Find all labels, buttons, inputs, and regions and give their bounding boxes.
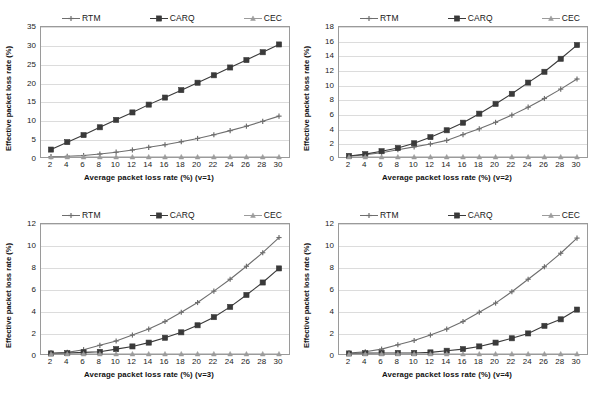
x-axis-ticks: 24681012141618202224262830 — [338, 357, 588, 369]
x-tick-label: 2 — [48, 160, 52, 169]
y-axis-label-text: Effective packet loss rate (%) — [5, 45, 14, 150]
x-tick-label: 28 — [257, 160, 266, 169]
data-point-carq — [526, 80, 531, 85]
x-tick-label: 12 — [127, 357, 136, 366]
cross-marker — [62, 14, 80, 23]
x-tick-label: 16 — [458, 160, 467, 169]
data-point-rtm — [526, 105, 531, 110]
data-point-rtm — [146, 145, 151, 150]
y-axis-label-text: Effective packet loss rate (%) — [5, 242, 14, 347]
x-tick-label: 24 — [225, 357, 234, 366]
y-tick-label: 12 — [325, 219, 334, 228]
data-point-carq — [477, 344, 482, 349]
x-axis-label: Average packet loss rate (%) (v=1) — [0, 173, 298, 182]
y-tick-label: 2 — [32, 329, 36, 338]
data-point-carq — [477, 111, 482, 116]
data-point-rtm — [477, 310, 482, 315]
x-tick-label: 28 — [555, 160, 564, 169]
y-tick-label: 2 — [330, 329, 334, 338]
x-tick-label: 18 — [176, 357, 185, 366]
x-tick-label: 24 — [523, 160, 532, 169]
legend-item-rtm: RTM — [360, 13, 399, 23]
y-tick-label: 10 — [27, 116, 36, 125]
x-tick-label: 10 — [111, 357, 120, 366]
x-tick-label: 4 — [64, 357, 68, 366]
x-tick-label: 24 — [225, 160, 234, 169]
data-point-rtm — [276, 114, 281, 119]
x-axis-label: Average packet loss rate (%) (v=3) — [0, 370, 298, 379]
y-axis-label: Effective packet loss rate (%) — [2, 229, 16, 361]
legend-item-rtm: RTM — [360, 210, 399, 220]
y-axis-ticks: 024681012141618 — [314, 26, 336, 158]
x-tick-label: 22 — [506, 160, 515, 169]
y-axis-label: Effective packet loss rate (%) — [2, 32, 16, 164]
series-layer — [41, 27, 289, 157]
data-point-carq — [542, 69, 547, 74]
data-point-carq — [444, 128, 449, 133]
legend-label: CEC — [264, 210, 282, 220]
x-tick-label: 14 — [441, 160, 450, 169]
data-point-carq — [228, 304, 233, 309]
y-axis-ticks: 024681012 — [16, 223, 38, 355]
data-point-carq — [542, 323, 547, 328]
plot-area-1: Effective packet loss rate (%)0246810121… — [298, 26, 596, 176]
data-point-rtm — [97, 343, 102, 348]
legend-label: RTM — [380, 210, 399, 220]
data-point-carq — [395, 145, 400, 150]
data-point-carq — [428, 135, 433, 140]
legend-item-rtm: RTM — [62, 13, 101, 23]
cross-marker — [360, 211, 378, 220]
chart-grid: RTMCARQCECEffective packet loss rate (%)… — [0, 6, 597, 400]
x-tick-label: 16 — [160, 160, 169, 169]
y-tick-label: 4 — [330, 307, 334, 316]
x-tick-label: 10 — [409, 357, 418, 366]
x-tick-label: 6 — [378, 357, 382, 366]
data-point-carq — [260, 50, 265, 55]
legend-label: RTM — [380, 13, 399, 23]
y-tick-label: 6 — [32, 285, 36, 294]
x-axis-ticks: 24681012141618202224262830 — [40, 357, 290, 369]
data-point-carq — [574, 307, 579, 312]
data-point-rtm — [162, 319, 167, 324]
x-tick-label: 16 — [458, 357, 467, 366]
triangle-marker — [244, 211, 262, 220]
x-tick-label: 30 — [274, 357, 283, 366]
triangle-marker — [542, 14, 560, 23]
x-tick-label: 26 — [241, 357, 250, 366]
data-point-carq — [260, 280, 265, 285]
data-point-rtm — [228, 128, 233, 133]
data-point-carq — [48, 147, 53, 152]
y-tick-label: 10 — [325, 80, 334, 89]
data-point-rtm — [428, 141, 433, 146]
x-tick-label: 8 — [97, 160, 101, 169]
data-point-carq — [97, 125, 102, 130]
series-layer — [41, 224, 289, 354]
data-point-carq — [81, 133, 86, 138]
y-tick-label: 30 — [27, 40, 36, 49]
data-point-rtm — [460, 319, 465, 324]
chart-panel-0: RTMCARQCECEffective packet loss rate (%)… — [0, 6, 298, 203]
x-tick-label: 8 — [395, 160, 399, 169]
y-tick-label: 14 — [325, 51, 334, 60]
y-tick-label: 8 — [330, 263, 334, 272]
data-point-carq — [379, 149, 384, 154]
y-tick-label: 0 — [32, 351, 36, 360]
x-tick-label: 14 — [143, 160, 152, 169]
data-point-rtm — [477, 126, 482, 131]
x-tick-label: 12 — [425, 357, 434, 366]
x-tick-label: 22 — [208, 160, 217, 169]
data-point-carq — [412, 141, 417, 146]
x-tick-label: 30 — [572, 357, 581, 366]
x-tick-label: 10 — [409, 160, 418, 169]
x-tick-label: 22 — [506, 357, 515, 366]
x-tick-label: 28 — [257, 357, 266, 366]
x-tick-label: 18 — [474, 160, 483, 169]
data-point-rtm — [146, 327, 151, 332]
y-axis-ticks: 024681012 — [314, 223, 336, 355]
legend-label: CARQ — [468, 13, 493, 23]
data-point-carq — [228, 65, 233, 70]
legend-item-cec: CEC — [542, 13, 580, 23]
data-point-carq — [211, 315, 216, 320]
x-tick-label: 8 — [97, 357, 101, 366]
data-point-carq — [65, 140, 70, 145]
